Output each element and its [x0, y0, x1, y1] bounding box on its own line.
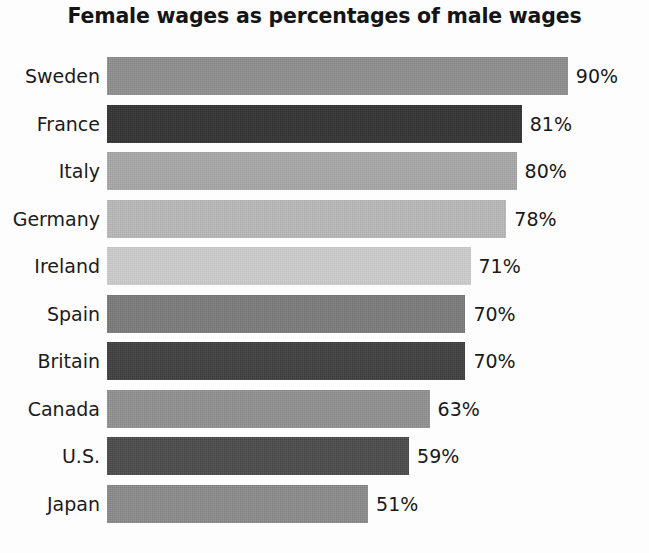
bar-row: Italy80%	[0, 152, 649, 190]
bar-row: Spain70%	[0, 295, 649, 333]
value-label-sweden: 90%	[576, 57, 618, 95]
bar-row: France81%	[0, 105, 649, 143]
category-label-sweden: Sweden	[25, 57, 100, 95]
value-label-germany: 78%	[514, 200, 556, 238]
chart-container: Female wages as percentages of male wage…	[0, 0, 649, 553]
value-label-italy: 80%	[525, 152, 567, 190]
category-label-britain: Britain	[37, 342, 100, 380]
bar-row: Germany78%	[0, 200, 649, 238]
value-label-canada: 63%	[438, 390, 480, 428]
category-label-japan: Japan	[47, 485, 100, 523]
value-label-japan: 51%	[376, 485, 418, 523]
bar-france	[107, 105, 522, 143]
plot-area: Sweden90%France81%Italy80%Germany78%Irel…	[0, 50, 649, 545]
bar-germany	[107, 200, 506, 238]
bar-japan	[107, 485, 368, 523]
value-label-us: 59%	[417, 437, 459, 475]
bar-britain	[107, 342, 465, 380]
value-label-ireland: 71%	[479, 247, 521, 285]
value-label-britain: 70%	[473, 342, 515, 380]
category-label-canada: Canada	[28, 390, 100, 428]
bar-row: Ireland71%	[0, 247, 649, 285]
bar-canada	[107, 390, 430, 428]
bar-row: Japan51%	[0, 485, 649, 523]
bar-row: Sweden90%	[0, 57, 649, 95]
chart-title: Female wages as percentages of male wage…	[0, 4, 649, 28]
bar-spain	[107, 295, 465, 333]
bar-row: Canada63%	[0, 390, 649, 428]
bar-sweden	[107, 57, 568, 95]
bar-italy	[107, 152, 517, 190]
category-label-ireland: Ireland	[34, 247, 100, 285]
value-label-france: 81%	[530, 105, 572, 143]
category-label-france: France	[37, 105, 100, 143]
bar-row: U.S.59%	[0, 437, 649, 475]
category-label-italy: Italy	[59, 152, 100, 190]
bar-us	[107, 437, 409, 475]
category-label-us: U.S.	[62, 437, 100, 475]
bar-row: Britain70%	[0, 342, 649, 380]
bar-ireland	[107, 247, 471, 285]
value-label-spain: 70%	[473, 295, 515, 333]
category-label-spain: Spain	[47, 295, 100, 333]
category-label-germany: Germany	[13, 200, 100, 238]
